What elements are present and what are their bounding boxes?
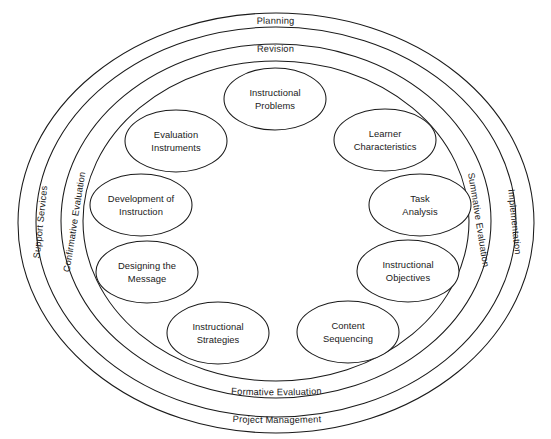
node-label-line1: Designing the bbox=[118, 260, 176, 271]
node-development-of-instruction[interactable]: Development of Instruction bbox=[90, 174, 192, 236]
node-label-line2: Objectives bbox=[386, 272, 431, 283]
node-label-line2: Analysis bbox=[402, 206, 438, 217]
ring-label-formative-evaluation: Formative Evaluation bbox=[231, 386, 322, 397]
node-label-line2: Strategies bbox=[197, 334, 240, 345]
node-label-line1: Task bbox=[410, 193, 430, 204]
node-label-line1: Instructional bbox=[382, 259, 433, 270]
node-label-line1: Content bbox=[331, 320, 365, 331]
node-instructional-problems[interactable]: Instructional Problems bbox=[224, 68, 326, 130]
diagram-canvas: Planning Revision Formative Evaluation P… bbox=[0, 0, 551, 439]
ring-label-support-services: Support Services bbox=[32, 185, 50, 259]
node-ellipse[interactable] bbox=[96, 241, 198, 303]
node-label-line1: Evaluation bbox=[154, 129, 198, 140]
node-instructional-strategies[interactable]: Instructional Strategies bbox=[167, 302, 269, 364]
node-ellipse[interactable] bbox=[167, 302, 269, 364]
ring-label-planning: Planning bbox=[257, 16, 295, 26]
node-designing-the-message[interactable]: Designing the Message bbox=[96, 241, 198, 303]
ring-label-implementation: Implementation bbox=[506, 189, 523, 255]
node-ellipse[interactable] bbox=[369, 174, 471, 236]
node-label-line1: Learner bbox=[369, 128, 402, 139]
node-ellipse[interactable] bbox=[334, 109, 436, 171]
node-label-line1: Instructional bbox=[192, 321, 243, 332]
node-label-line2: Instruction bbox=[119, 206, 163, 217]
node-label-line2: Sequencing bbox=[323, 333, 373, 344]
node-content-sequencing[interactable]: Content Sequencing bbox=[297, 301, 399, 363]
instructional-design-diagram: Planning Revision Formative Evaluation P… bbox=[0, 0, 551, 439]
node-ellipse[interactable] bbox=[297, 301, 399, 363]
node-label-line2: Characteristics bbox=[354, 141, 417, 152]
node-label-line2: Problems bbox=[255, 100, 295, 111]
node-label-line1: Development of bbox=[108, 193, 175, 204]
node-ellipse[interactable] bbox=[125, 110, 227, 172]
node-evaluation-instruments[interactable]: Evaluation Instruments bbox=[125, 110, 227, 172]
node-task-analysis[interactable]: Task Analysis bbox=[369, 174, 471, 236]
node-label-line2: Instruments bbox=[151, 142, 201, 153]
ring-label-project-management: Project Management bbox=[232, 414, 321, 425]
ring-label-revision: Revision bbox=[257, 44, 294, 54]
node-ellipse[interactable] bbox=[224, 68, 326, 130]
node-label-line2: Message bbox=[128, 273, 166, 284]
node-learner-characteristics[interactable]: Learner Characteristics bbox=[334, 109, 436, 171]
node-label-line1: Instructional bbox=[249, 87, 300, 98]
node-ellipse[interactable] bbox=[357, 240, 459, 302]
node-instructional-objectives[interactable]: Instructional Objectives bbox=[357, 240, 459, 302]
node-ellipse[interactable] bbox=[90, 174, 192, 236]
